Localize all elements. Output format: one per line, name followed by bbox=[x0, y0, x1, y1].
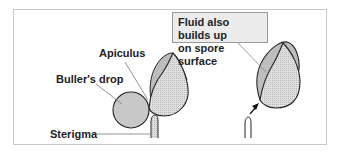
right-sterigma bbox=[245, 117, 251, 138]
fluid-callout: Fluid also builds up on spore surface bbox=[172, 12, 268, 43]
sterigma-label: Sterigma bbox=[50, 128, 97, 140]
left-spore-group bbox=[113, 53, 188, 138]
launch-arrow-head bbox=[252, 103, 259, 110]
apiculus-label: Apiculus bbox=[99, 47, 145, 59]
callout-line-1: Fluid also builds up bbox=[178, 16, 262, 42]
bullers-drop-label: Buller's drop bbox=[56, 73, 123, 85]
left-sterigma bbox=[151, 115, 158, 138]
bullers-drop bbox=[113, 92, 149, 128]
callout-line-2: on spore surface bbox=[178, 42, 262, 68]
bullers-drop-leader bbox=[96, 84, 122, 104]
